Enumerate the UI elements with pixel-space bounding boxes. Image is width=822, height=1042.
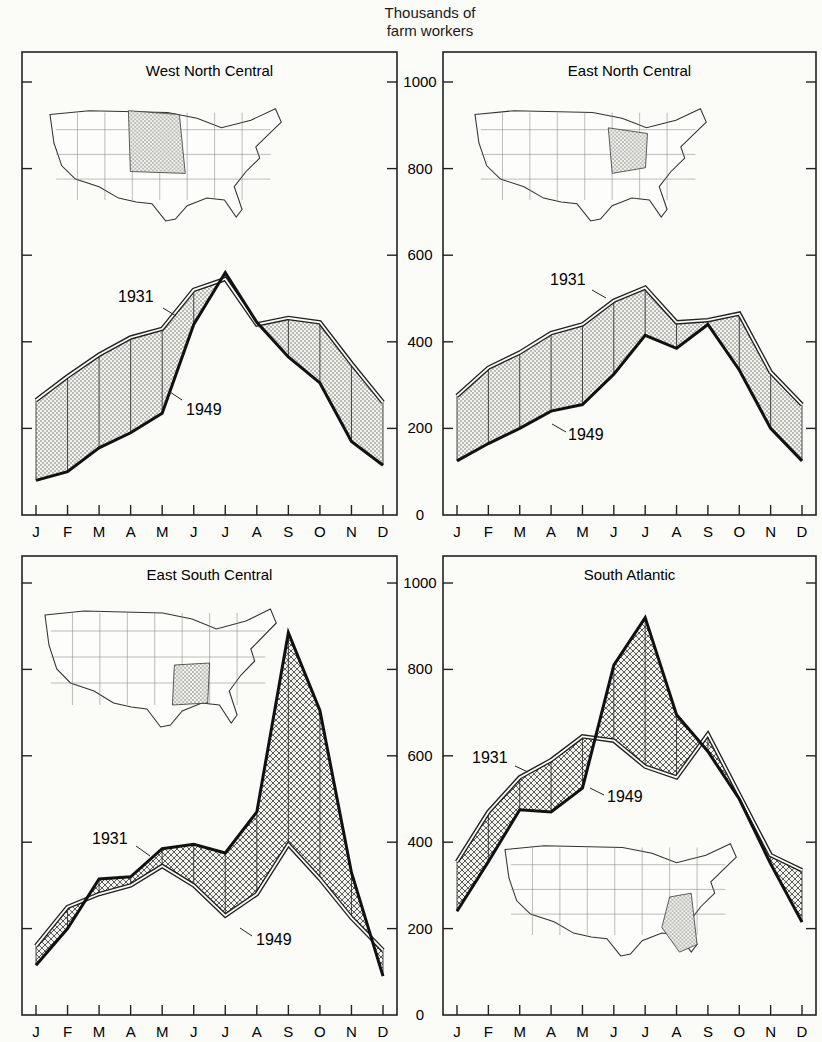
month-label: S — [703, 523, 713, 540]
y-tick-label: 1000 — [403, 73, 436, 90]
month-label: O — [733, 523, 745, 540]
y-tick-label: 1000 — [403, 574, 436, 591]
panel-title: West North Central — [146, 62, 273, 79]
y-tick-label: 800 — [407, 160, 432, 177]
us-map-inset — [505, 844, 736, 956]
month-label: A — [546, 1023, 556, 1040]
series-annotation-1949: 1949 — [256, 931, 292, 948]
month-label: J — [453, 1023, 461, 1040]
panel-title: East South Central — [147, 566, 273, 583]
month-label: N — [765, 1023, 776, 1040]
y-tick-label: 400 — [407, 333, 432, 350]
month-label: A — [672, 1023, 682, 1040]
y-tick-label: 800 — [407, 660, 432, 677]
difference-band — [36, 273, 383, 481]
month-label: O — [314, 1023, 326, 1040]
series-annotation-1949: 1949 — [607, 788, 643, 805]
month-label: J — [32, 1023, 40, 1040]
month-label: A — [672, 523, 682, 540]
series-annotation-1931: 1931 — [118, 288, 154, 305]
series-annotation-1949: 1949 — [568, 426, 604, 443]
month-label: J — [641, 523, 649, 540]
month-label: F — [484, 1023, 493, 1040]
series-annotation-1931: 1931 — [550, 271, 586, 288]
month-label: D — [378, 1023, 389, 1040]
y-tick-label: 0 — [416, 506, 424, 523]
month-label: N — [765, 523, 776, 540]
month-label: M — [513, 523, 526, 540]
month-label: S — [283, 523, 293, 540]
panel-title: South Atlantic — [584, 566, 676, 583]
month-label: M — [156, 523, 169, 540]
month-label: M — [513, 1023, 526, 1040]
highlighted-region — [608, 128, 647, 174]
y-tick-label: 200 — [407, 920, 432, 937]
y-tick-label: 0 — [416, 1006, 424, 1023]
series-annotation-1931: 1931 — [92, 830, 128, 847]
month-label: J — [190, 1023, 198, 1040]
month-label: N — [346, 1023, 357, 1040]
month-label: J — [610, 523, 618, 540]
month-label: O — [733, 1023, 745, 1040]
month-label: J — [453, 523, 461, 540]
series-annotation-1931: 1931 — [472, 749, 508, 766]
month-label: J — [641, 1023, 649, 1040]
us-map-inset — [475, 109, 706, 221]
month-label: J — [610, 1023, 618, 1040]
month-label: A — [126, 523, 136, 540]
month-label: M — [576, 1023, 589, 1040]
y-tick-label: 600 — [407, 246, 432, 263]
month-label: D — [797, 1023, 808, 1040]
highlighted-region — [128, 111, 185, 174]
month-label: M — [93, 1023, 106, 1040]
month-label: S — [283, 1023, 293, 1040]
us-map-inset — [45, 609, 276, 727]
month-label: S — [703, 1023, 713, 1040]
month-label: J — [32, 523, 40, 540]
month-label: D — [797, 523, 808, 540]
month-label: J — [190, 523, 198, 540]
month-label: A — [252, 523, 262, 540]
month-label: J — [222, 1023, 230, 1040]
month-label: O — [314, 523, 326, 540]
series-annotation-1949: 1949 — [186, 401, 222, 418]
us-map-inset — [50, 109, 281, 221]
farm-workers-chart-grid: West North Central02004006008001000JFMAM… — [0, 0, 822, 1042]
month-label: A — [546, 523, 556, 540]
y-tick-label: 400 — [407, 833, 432, 850]
month-label: F — [484, 523, 493, 540]
highlighted-region — [172, 663, 209, 705]
panel-title: East North Central — [568, 62, 691, 79]
y-tick-label: 200 — [407, 419, 432, 436]
month-label: F — [63, 1023, 72, 1040]
month-label: J — [222, 523, 230, 540]
month-label: F — [63, 523, 72, 540]
month-label: N — [346, 523, 357, 540]
month-label: M — [93, 523, 106, 540]
month-label: D — [378, 523, 389, 540]
month-label: M — [156, 1023, 169, 1040]
month-label: M — [576, 523, 589, 540]
y-tick-label: 600 — [407, 747, 432, 764]
month-label: A — [126, 1023, 136, 1040]
month-label: A — [252, 1023, 262, 1040]
